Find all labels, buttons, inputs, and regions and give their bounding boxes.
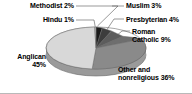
- slice-label-muslim: Muslim 3%: [126, 2, 161, 10]
- slice-label-roman-catholic: Roman Catholic 9%: [132, 28, 171, 44]
- slice-label-other-nonreligious-line1: Other and: [118, 66, 174, 74]
- slice-label-anglican-line2: 45%: [2, 61, 46, 69]
- slice-label-roman-catholic-line2: Catholic 9%: [132, 36, 171, 44]
- slice-label-anglican-line1: Anglican: [2, 53, 46, 61]
- bottom-divider: [0, 93, 192, 94]
- leader-line-catholic: [118, 31, 130, 34]
- slice-label-hindu: Hindu 1%: [2, 16, 74, 24]
- slice-label-anglican: Anglican 45%: [2, 53, 46, 69]
- slice-label-roman-catholic-line1: Roman: [132, 28, 171, 36]
- slice-label-other-nonreligious-line2: nonreligious 36%: [118, 74, 174, 82]
- leader-line-hindu: [76, 20, 95, 27]
- slice-label-methodist: Methodist 2%: [2, 2, 74, 10]
- leader-line-methodist: [76, 6, 118, 26]
- slice-label-presbyterian: Presbyterian 4%: [126, 16, 179, 24]
- slice-label-other-nonreligious: Other and nonreligious 36%: [118, 66, 174, 82]
- pie-chart-figure: Methodist 2% Hindu 1% Anglican 45% Musli…: [0, 0, 192, 94]
